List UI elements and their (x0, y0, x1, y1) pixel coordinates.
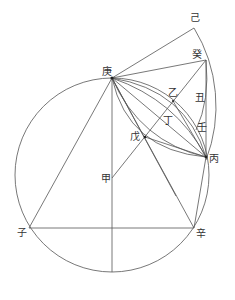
point-yi (172, 100, 174, 102)
label-gui: 癸 (192, 48, 202, 60)
line-gui-jia (112, 60, 206, 178)
label-chou: 丑 (195, 92, 205, 103)
point-wu (144, 136, 147, 139)
label-geng: 庚 (102, 65, 112, 77)
label-ji: 己 (190, 12, 200, 23)
label-yi: 乙 (168, 87, 178, 98)
label-bing: 丙 (209, 153, 219, 164)
label-ding: 丁 (163, 115, 173, 126)
label-jia: 甲 (101, 173, 111, 184)
line-bing-xin (194, 157, 206, 228)
geometry-diagram: 己 癸 庚 乙 丑 丁 壬 戊 丙 甲 子 辛 (0, 0, 235, 300)
line-geng-zi (29, 78, 112, 228)
label-ren: 壬 (197, 122, 207, 133)
line-wu-bing (145, 137, 206, 157)
label-wu: 戊 (130, 131, 140, 142)
label-xin: 辛 (196, 227, 206, 239)
point-bing (205, 156, 208, 159)
label-zi: 子 (17, 227, 27, 238)
